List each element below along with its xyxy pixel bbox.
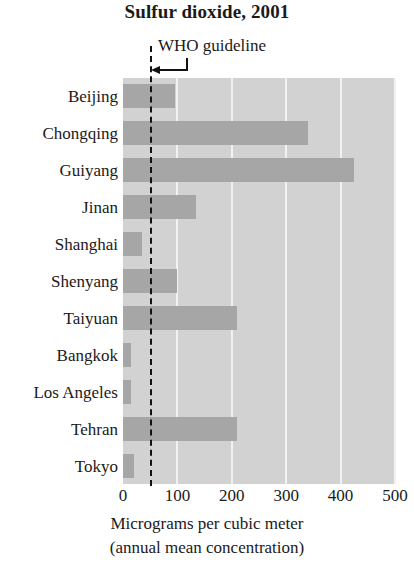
bar-guiyang [123, 158, 354, 182]
bar-tokyo [123, 454, 134, 478]
category-label-jinan: Jinan [5, 196, 123, 220]
axis-caption-line-1: Micrograms per cubic meter [0, 512, 414, 536]
category-label-shanghai: Shanghai [5, 233, 123, 257]
bar-tehran [123, 417, 237, 441]
category-label-beijing: Beijing [5, 85, 123, 109]
bar-bangkok [123, 343, 131, 367]
chart-figure: Sulfur dioxide, 2001 BeijingChongqingGui… [0, 0, 414, 575]
bar-row [123, 232, 395, 256]
category-label-los-angeles: Los Angeles [5, 381, 123, 405]
bar-row [123, 121, 395, 145]
who-guideline-label: WHO guideline [158, 36, 266, 56]
bar-jinan [123, 195, 196, 219]
bar-row [123, 380, 395, 404]
x-tick-label-0: 0 [119, 486, 128, 506]
bar-taiyuan [123, 306, 237, 330]
category-label-shenyang: Shenyang [5, 270, 123, 294]
bar-row [123, 84, 395, 108]
chart-title: Sulfur dioxide, 2001 [0, 1, 414, 23]
bar-shanghai [123, 232, 142, 256]
x-tick-label-300: 300 [273, 486, 299, 506]
x-tick-label-200: 200 [219, 486, 245, 506]
category-label-chongqing: Chongqing [5, 122, 123, 146]
category-label-guiyang: Guiyang [5, 159, 123, 183]
category-label-taiyuan: Taiyuan [5, 307, 123, 331]
bar-row [123, 343, 395, 367]
who-guideline-line [150, 46, 152, 486]
bar-row [123, 195, 395, 219]
bar-row [123, 269, 395, 293]
axis-caption-line-2: (annual mean concentration) [0, 536, 414, 560]
bar-beijing [123, 84, 175, 108]
axis-caption: Micrograms per cubic meter (annual mean … [0, 512, 414, 560]
x-tick-label-100: 100 [165, 486, 191, 506]
bar-row [123, 306, 395, 330]
x-tick-label-500: 500 [382, 486, 408, 506]
category-label-bangkok: Bangkok [5, 344, 123, 368]
category-axis: BeijingChongqingGuiyangJinanShanghaiShen… [0, 78, 123, 484]
bar-row [123, 417, 395, 441]
category-label-tokyo: Tokyo [5, 455, 123, 479]
plot-area [123, 78, 395, 484]
who-guideline-arrow-icon [149, 57, 191, 77]
bar-row [123, 454, 395, 478]
category-label-tehran: Tehran [5, 418, 123, 442]
x-tick-label-400: 400 [328, 486, 354, 506]
value-axis: 0100200300400500 [123, 486, 395, 510]
bar-row [123, 158, 395, 182]
bar-los-angeles [123, 380, 131, 404]
